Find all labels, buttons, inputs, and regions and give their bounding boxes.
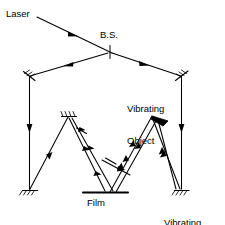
optical-diagram-figure: Laser B.S. Vibrating Object Film Vibrati… bbox=[0, 0, 225, 225]
beam-bottomleft-to-midleft bbox=[30, 117, 68, 189]
beam-bs-to-mirror-top-left bbox=[30, 53, 108, 76]
mirror-mid-left-symbol bbox=[61, 112, 77, 117]
label-laser: Laser bbox=[6, 9, 30, 20]
arrowhead-right-vertical bbox=[179, 124, 185, 133]
label-vibrating-object-line1: Vibrating bbox=[127, 104, 164, 115]
label-beam-splitter: B.S. bbox=[100, 30, 118, 41]
beam-left-vertical bbox=[27, 77, 33, 190]
arrowhead-bs-to-right bbox=[139, 61, 150, 66]
arrowhead-left-vertical bbox=[27, 124, 33, 133]
beam-crossing-at-film bbox=[102, 160, 130, 175]
label-vibrating-mirror: Vibrating Mirror bbox=[164, 197, 201, 225]
vibrating-mirror-symbol bbox=[172, 191, 189, 196]
label-vibrating-object: Vibrating Object bbox=[127, 83, 164, 167]
beam-midleft-to-film-ray-a bbox=[69, 118, 105, 191]
beam-bs-to-mirror-top-right bbox=[112, 53, 181, 76]
arrowhead-laser-beam bbox=[68, 32, 78, 37]
label-vibrating-mirror-line1: Vibrating bbox=[164, 218, 201, 225]
beam-expander-mark-right bbox=[106, 155, 130, 164]
arrowhead-bs-to-left bbox=[63, 62, 74, 67]
label-film: Film bbox=[87, 198, 105, 209]
mirror-bottom-left-symbol bbox=[20, 191, 38, 196]
beam-right-vertical bbox=[179, 76, 185, 189]
label-vibrating-object-line2: Object bbox=[127, 136, 164, 147]
arrowhead-ref-beam-a2 bbox=[94, 171, 102, 176]
